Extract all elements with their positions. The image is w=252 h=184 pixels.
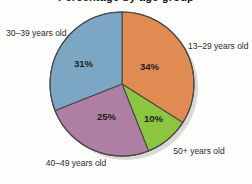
slice-label-13-29-text: 13–29 years old xyxy=(188,41,249,51)
slice-label-40-49-text: 40–49 years old xyxy=(46,158,107,168)
slice-label-13-29: 13–29 years old xyxy=(188,41,248,52)
slice-label-30-39: 30–39 years old xyxy=(6,28,64,39)
slice-value-30-39: 31% xyxy=(74,58,93,69)
pie-chart-figure: Percentage by age group 30–39 years old … xyxy=(0,0,252,184)
slice-value-40-49: 25% xyxy=(97,111,116,122)
slice-value-50-plus: 10% xyxy=(144,113,163,124)
slice-label-50-plus-text: 50+ years old xyxy=(173,146,224,156)
slice-value-13-29: 34% xyxy=(140,61,159,72)
slice-label-50-plus: 50+ years old xyxy=(170,146,228,157)
slice-label-30-39-text: 30–39 years old xyxy=(6,28,67,38)
slice-label-40-49: 40–49 years old xyxy=(40,158,112,169)
